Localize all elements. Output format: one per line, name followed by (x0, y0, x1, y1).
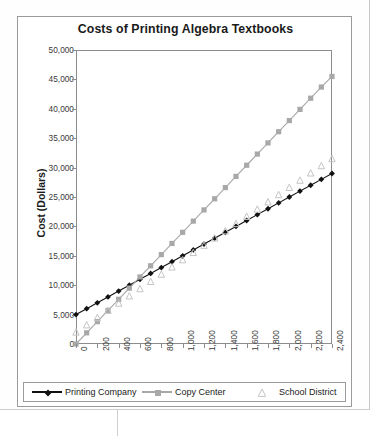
legend-marker-square-icon (153, 388, 163, 398)
x-tick-mark (119, 344, 120, 348)
data-point (286, 194, 292, 200)
x-tick-mark (204, 344, 205, 348)
data-point (159, 252, 164, 257)
data-point (94, 300, 100, 306)
data-point (265, 199, 271, 205)
legend-item-school-district[interactable]: School District (246, 383, 337, 401)
x-tick-label: 400 (122, 337, 132, 351)
data-point (84, 306, 90, 312)
legend-item-copy-center[interactable]: Copy Center (142, 383, 226, 401)
series-printing-company (73, 171, 335, 318)
y-tick-label: 50,000 (26, 45, 74, 55)
series-copy-center (73, 74, 334, 347)
legend-marker-triangle-icon (257, 388, 267, 398)
data-point (180, 230, 185, 235)
x-tick-label: 2,000 (293, 330, 303, 351)
y-tick-label: 40,000 (26, 104, 74, 114)
data-point (286, 184, 292, 190)
x-tick-label: 600 (143, 337, 153, 351)
legend-swatch-diamond-icon (32, 386, 62, 398)
data-point (233, 174, 238, 179)
legend-marker-diamond-icon (43, 388, 53, 398)
series-layer (76, 50, 332, 344)
y-tick-label: 15,000 (26, 251, 74, 261)
data-point (297, 188, 303, 194)
page-footer-divider (0, 409, 370, 436)
data-point (307, 170, 313, 176)
chart-legend: Printing CompanyCopy CenterSchool Distri… (23, 382, 346, 402)
x-tick-label: 1,000 (186, 330, 196, 351)
data-point (137, 285, 143, 291)
chart-container: Costs of Printing Algebra Textbooks 05,0… (17, 16, 352, 407)
y-tick-label: 20,000 (26, 221, 74, 231)
data-point (287, 118, 292, 123)
y-tick-label: 25,000 (26, 192, 74, 202)
x-tick-mark (140, 344, 141, 348)
y-tick-label: 5,000 (26, 310, 74, 320)
data-point (329, 74, 334, 79)
data-point (275, 191, 281, 197)
data-point (105, 294, 111, 300)
data-point (329, 155, 335, 161)
data-point (265, 140, 270, 145)
data-point (308, 182, 314, 188)
x-tick-mark (268, 344, 269, 348)
y-tick-label: 10,000 (26, 280, 74, 290)
y-axis-title: Cost (Dollars) (35, 133, 47, 273)
legend-label: Copy Center (175, 387, 226, 397)
x-tick-label: 800 (165, 337, 175, 351)
y-tick-label: 0 (26, 339, 74, 349)
x-tick-mark (247, 344, 248, 348)
data-point (319, 84, 324, 89)
y-tick-label: 30,000 (26, 163, 74, 173)
data-point (276, 200, 282, 206)
data-point (212, 196, 217, 201)
x-tick-label: 1,800 (271, 330, 281, 351)
data-point (137, 274, 142, 279)
data-point (244, 163, 249, 168)
y-tick-label: 45,000 (26, 74, 74, 84)
page-frame: Costs of Printing Algebra Textbooks 05,0… (0, 0, 370, 436)
data-point (191, 219, 196, 224)
legend-swatch-triangle-icon (246, 386, 276, 398)
x-tick-mark (332, 344, 333, 348)
data-point (158, 265, 164, 271)
data-point (244, 218, 250, 224)
data-point (169, 264, 175, 270)
y-tick-label: 35,000 (26, 133, 74, 143)
x-tick-label: 1,600 (250, 330, 260, 351)
x-tick-label: 200 (101, 337, 111, 351)
data-point (158, 271, 164, 277)
data-point (297, 177, 303, 183)
data-point (116, 288, 122, 294)
x-tick-label: 0 (79, 346, 89, 351)
x-tick-label: 2,200 (314, 330, 324, 351)
data-point (201, 207, 206, 212)
data-point (318, 176, 324, 182)
data-point (223, 185, 228, 190)
data-point (148, 271, 154, 277)
legend-label: Printing Company (65, 387, 137, 397)
footer-vertical-rule (117, 410, 118, 436)
legend-label: School District (279, 387, 337, 397)
legend-swatch-square-icon (142, 386, 172, 398)
data-point (329, 171, 335, 177)
data-point (83, 322, 89, 328)
x-tick-label: 2,400 (335, 330, 345, 351)
data-point (265, 206, 271, 212)
data-point (126, 293, 132, 299)
legend-item-printing-company[interactable]: Printing Company (32, 383, 137, 401)
data-point (169, 241, 174, 246)
data-point (318, 162, 324, 168)
x-tick-mark (183, 344, 184, 348)
x-tick-mark (76, 344, 77, 348)
data-point (127, 286, 132, 291)
data-point (297, 107, 302, 112)
data-point (308, 96, 313, 101)
data-point (95, 319, 100, 324)
x-tick-mark (161, 344, 162, 348)
x-tick-mark (225, 344, 226, 348)
x-tick-label: 1,400 (229, 330, 239, 351)
data-point (147, 278, 153, 284)
x-tick-mark (289, 344, 290, 348)
